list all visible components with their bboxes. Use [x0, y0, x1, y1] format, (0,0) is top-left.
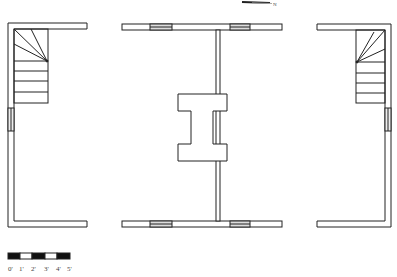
floor-plan: N — [0, 0, 397, 277]
scale-bar — [8, 253, 70, 259]
scale-label: 4' — [56, 265, 61, 273]
staircase-right — [356, 30, 385, 103]
scale-label: 5' — [67, 265, 72, 273]
left-wing — [8, 23, 87, 227]
center-partition — [216, 30, 220, 221]
staircase-left — [14, 29, 48, 103]
right-wing — [317, 24, 391, 227]
scale-label: 3' — [44, 265, 49, 273]
scale-label: 1' — [19, 265, 24, 273]
central-hall — [122, 24, 282, 227]
north-arrow-icon — [242, 2, 272, 4]
scale-label: 0' — [8, 265, 13, 273]
north-label: N — [273, 2, 277, 7]
scale-label: 2' — [31, 265, 36, 273]
